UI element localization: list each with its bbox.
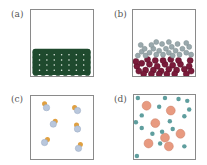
top-liquid-particle [161,52,166,57]
top-liquid-particle [154,40,159,45]
small-particle [182,114,186,118]
bottom-liquid-particle [164,71,170,76]
lattice-gap-highlight [39,64,41,66]
panel-label-a: (a) [11,10,23,19]
top-liquid-particle [135,53,140,58]
bottom-liquid-particle [139,60,145,66]
small-particle [157,104,161,108]
top-liquid-particle [184,50,189,55]
container-box-b [132,9,196,77]
large-particle [176,129,185,138]
top-liquid-particle [177,52,182,57]
small-particle [171,127,175,131]
lattice-gap-highlight [46,69,48,71]
top-liquid-particle [166,40,171,45]
lattice-gap-highlight [46,64,48,66]
lattice-gap-highlight [46,59,48,61]
bottom-liquid-particle [176,57,182,63]
lattice-gap-highlight [53,69,55,71]
lattice-gap-highlight [83,54,85,56]
top-liquid-particle [169,44,174,49]
panel-label-d: (d) [114,95,127,104]
small-particle [150,132,154,136]
lattice-gap-highlight [83,64,85,66]
lattice-gap-highlight [61,69,63,71]
bottom-liquid-particle [152,57,158,63]
molecule-atom-blue [75,145,81,151]
molecule-atom-blue [50,121,56,127]
lattice-gap-highlight [61,54,63,56]
molecule-atom-blue [74,126,80,132]
small-particle [140,126,144,130]
lattice-gap-highlight [39,59,41,61]
gas-molecules [31,96,93,159]
molecule-atom-blue [74,107,80,113]
top-liquid-particle [173,48,178,53]
large-particle [166,106,175,115]
small-particle [135,154,139,158]
lattice-gap-highlight [83,59,85,61]
lattice-gap-highlight [53,54,55,56]
lattice-gap-highlight [76,59,78,61]
top-liquid-particle [160,41,165,46]
bottom-liquid-particle [133,58,139,64]
bottom-liquid-particle [160,57,166,63]
lattice-gap-highlight [68,69,70,71]
lattice-gap-highlight [53,64,55,66]
top-liquid-particle [180,46,185,51]
liquid-layers [133,10,195,76]
lattice-gap-highlight [53,59,55,61]
bottom-liquid-particle [141,71,147,76]
container-box-d [133,94,196,160]
small-particle [158,141,162,145]
top-liquid-particle [175,41,180,46]
top-liquid-particle [138,42,143,47]
top-liquid-particle [142,46,147,51]
top-liquid-particle [184,40,189,45]
molecule-atom-blue [43,104,49,110]
small-particle [176,97,180,101]
solid-particle [84,70,90,76]
small-particle [168,119,172,123]
container-box-a [30,9,94,77]
small-particle [134,120,138,124]
lattice-gap-highlight [68,64,70,66]
container-box-c [30,95,94,160]
bottom-liquid-particle [170,62,176,68]
large-particle [164,142,173,151]
gas-mixture [134,95,195,159]
top-liquid-particle [170,53,175,58]
small-particle [185,99,189,103]
solid-particle [40,70,46,76]
top-liquid-particle [189,52,194,57]
bottom-liquid-particle [187,57,193,63]
lattice-gap-highlight [61,59,63,61]
small-particle [182,144,186,148]
small-particle [140,113,144,117]
lattice-gap-highlight [76,69,78,71]
lattice-gap-highlight [39,69,41,71]
lattice-gap-highlight [76,54,78,56]
panel-label-c: (c) [11,95,23,104]
small-particle [163,96,167,100]
solid-particle [70,70,76,76]
large-particle [142,101,151,110]
lattice-gap-highlight [83,69,85,71]
large-particle [151,119,160,128]
solid-particle [62,70,68,76]
lattice-gap-highlight [46,54,48,56]
small-particle [160,130,164,134]
solid-particle [77,70,83,76]
solid-particle [33,70,39,76]
solid-particle [47,70,53,76]
large-particle [161,133,170,142]
small-particle [136,96,140,100]
bottom-liquid-particle [154,63,160,69]
top-liquid-particle [157,48,162,53]
bottom-liquid-particle [148,71,154,76]
top-liquid-particle [149,42,154,47]
large-particle [144,139,153,148]
lattice-gap-highlight [61,64,63,66]
bottom-liquid-particle [172,71,178,76]
solid-lattice [31,10,93,76]
